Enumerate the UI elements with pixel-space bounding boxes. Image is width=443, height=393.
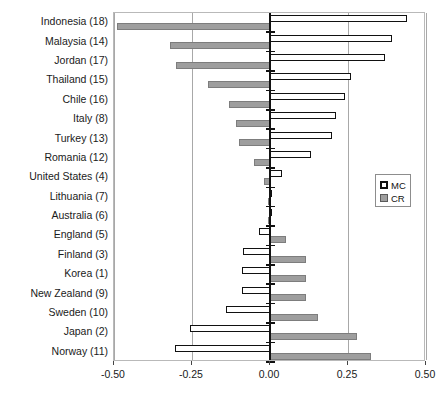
bar-mc (270, 35, 392, 42)
category-label: Thailand (15) (0, 74, 108, 84)
category-label: Korea (1) (0, 268, 108, 278)
category-label: United States (4) (0, 171, 108, 181)
category-label: Indonesia (18) (0, 16, 108, 26)
bar-mc (226, 306, 270, 313)
gridline (426, 13, 427, 360)
bar-mc (270, 93, 345, 100)
value-axis-tick-label: 0.00 (259, 368, 279, 380)
bar-mc (270, 170, 282, 177)
bar-cr (176, 62, 270, 69)
legend-label-mc: MC (391, 181, 406, 190)
bar-cr (170, 42, 270, 49)
value-axis-tick (347, 361, 348, 365)
gridline (348, 13, 349, 360)
category-label: Japan (2) (0, 326, 108, 336)
legend-label-cr: CR (391, 194, 405, 203)
bar-mc (242, 287, 270, 294)
value-axis-tick-label: 0.25 (337, 368, 357, 380)
value-axis-tick (113, 361, 114, 365)
legend-swatch-mc-icon (380, 181, 388, 189)
category-label: Australia (6) (0, 210, 108, 220)
category-label: Turkey (13) (0, 133, 108, 143)
bar-mc (270, 73, 351, 80)
bar-mc (175, 345, 270, 352)
category-label: Malaysia (14) (0, 36, 108, 46)
value-axis-tick (191, 361, 192, 365)
bar-cr (270, 236, 286, 243)
gridline (114, 13, 115, 360)
category-label: Jordan (17) (0, 55, 108, 65)
value-axis: -0.50-0.250.000.250.50 (113, 361, 425, 391)
category-label: Chile (16) (0, 94, 108, 104)
bar-mc (270, 54, 385, 61)
bar-mc (243, 248, 270, 255)
bar-cr (270, 333, 357, 340)
bar-mc (270, 15, 407, 22)
bar-mc (270, 112, 336, 119)
category-label: Norway (11) (0, 346, 108, 356)
bar-cr (270, 275, 306, 282)
value-axis-tick-label: -0.50 (101, 368, 125, 380)
category-label: Italy (8) (0, 113, 108, 123)
zero-axis-line (269, 13, 271, 360)
value-axis-tick (269, 361, 270, 365)
value-axis-tick-label: -0.25 (179, 368, 203, 380)
bar-mc (190, 325, 270, 332)
category-axis-labels: Indonesia (18)Malaysia (14)Jordan (17)Th… (0, 12, 108, 361)
horizontal-bar-chart: Indonesia (18)Malaysia (14)Jordan (17)Th… (0, 0, 443, 393)
bar-cr (270, 256, 306, 263)
category-label: New Zealand (9) (0, 288, 108, 298)
value-axis-tick (425, 361, 426, 365)
category-label: Romania (12) (0, 152, 108, 162)
bar-mc (270, 151, 311, 158)
bar-cr (117, 23, 270, 30)
bar-mc (270, 132, 332, 139)
legend-swatch-cr-icon (380, 194, 388, 202)
legend-item-cr: CR (380, 192, 407, 204)
bar-mc (242, 267, 270, 274)
bar-cr (270, 353, 371, 360)
bar-cr (254, 159, 270, 166)
bar-cr (270, 294, 306, 301)
bar-cr (270, 314, 318, 321)
category-label: Lithuania (7) (0, 191, 108, 201)
bar-cr (236, 120, 270, 127)
bar-cr (239, 139, 270, 146)
category-label: Finland (3) (0, 249, 108, 259)
value-axis-tick-label: 0.50 (415, 368, 435, 380)
category-label: Sweden (10) (0, 307, 108, 317)
category-label: England (5) (0, 229, 108, 239)
legend-item-mc: MC (380, 179, 407, 191)
bar-cr (208, 81, 270, 88)
chart-legend: MC CR (375, 174, 411, 207)
bar-cr (229, 101, 270, 108)
